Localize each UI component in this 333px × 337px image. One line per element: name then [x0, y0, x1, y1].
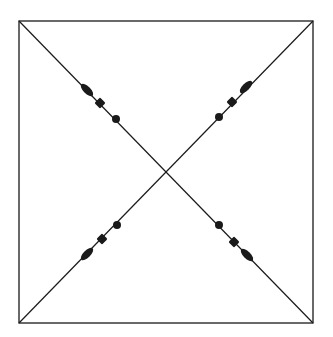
square-marker-icon [226, 96, 237, 107]
dot-marker-icon [112, 115, 120, 123]
dot-marker-icon [113, 221, 121, 229]
dot-marker-icon [215, 221, 223, 229]
diamond-marker-icon [238, 79, 254, 95]
diagram-canvas [0, 0, 333, 337]
dot-marker-icon [215, 113, 223, 121]
square-marker-icon [96, 233, 107, 244]
square-marker-icon [94, 97, 105, 108]
